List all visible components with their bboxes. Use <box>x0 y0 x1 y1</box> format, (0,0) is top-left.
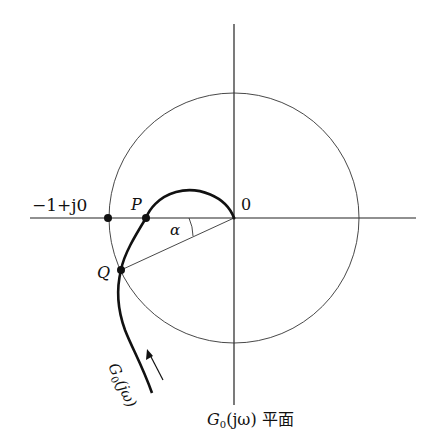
point-q-label: Q <box>97 263 110 282</box>
origin-label: 0 <box>241 195 251 214</box>
nyquist-diagram: −1+j0 P 0 Q α G0(jω) G0(jω) 平面 <box>0 0 446 443</box>
critical-point-label: −1+j0 <box>32 195 87 215</box>
point-p-dot <box>142 214 150 222</box>
point-q-dot <box>117 266 125 274</box>
svg-text:G0(jω): G0(jω) <box>103 360 140 411</box>
plane-title: G0(jω) 平面 <box>207 410 294 430</box>
origin-dot <box>233 217 236 220</box>
point-p-label: P <box>130 195 142 214</box>
critical-point-dot <box>104 214 112 222</box>
curve-label: G0(jω) <box>103 360 140 411</box>
angle-label: α <box>170 221 180 239</box>
angle-arc <box>189 218 193 236</box>
direction-arrow-icon <box>146 349 163 380</box>
